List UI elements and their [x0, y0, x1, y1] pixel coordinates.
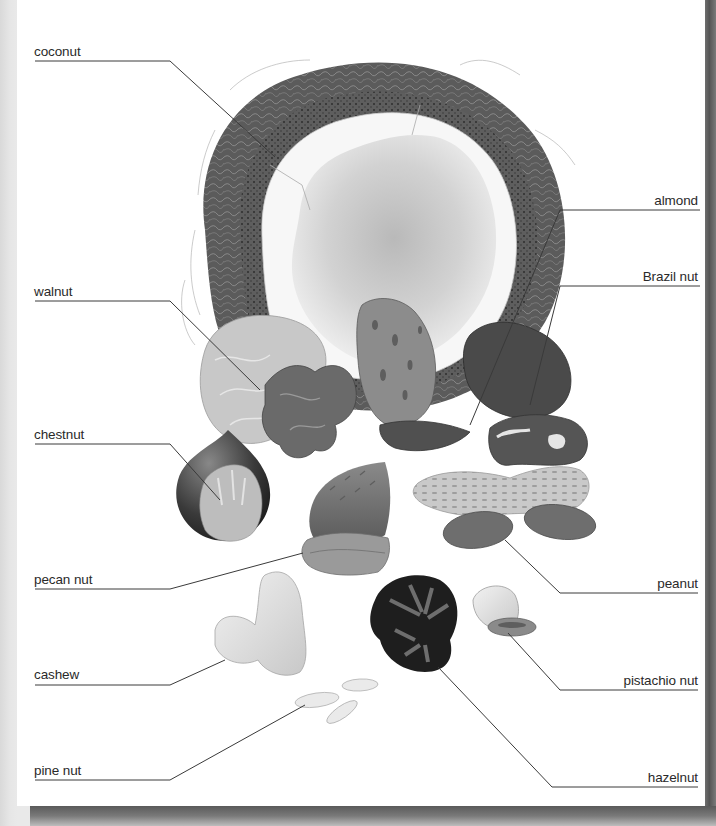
label-coconut: coconut [34, 44, 81, 60]
cashew-illustration [215, 572, 306, 675]
label-hazelnut: hazelnut [648, 770, 698, 786]
pecan-nut-illustration [302, 462, 390, 575]
label-chestnut: chestnut [34, 427, 84, 443]
hazelnut-illustration [370, 575, 457, 672]
pistachio-nut-illustration [473, 586, 536, 636]
nuts-illustration [0, 0, 716, 826]
label-walnut: walnut [34, 284, 72, 300]
label-almond: almond [654, 193, 698, 209]
label-brazil-nut: Brazil nut [643, 269, 698, 285]
brazil-nut-illustration [463, 322, 587, 465]
label-cashew: cashew [34, 667, 79, 683]
label-pine-nut: pine nut [34, 763, 81, 779]
peanut-illustration [413, 467, 598, 553]
label-pecan-nut: pecan nut [34, 572, 92, 588]
label-pistachio-nut: pistachio nut [624, 673, 699, 689]
pine-nut-illustration [294, 678, 378, 727]
chestnut-illustration [176, 430, 270, 541]
label-peanut: peanut [657, 576, 698, 592]
